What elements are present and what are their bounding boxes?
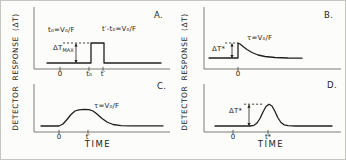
- panel-a-tick-t0: t₀: [86, 71, 92, 78]
- panel-b-annotation-tau: τ=V₀/F: [247, 35, 272, 42]
- panel-a-annotation-t0: t₀=V₀/F: [48, 27, 75, 34]
- panel-b-delta-t-star-label: ΔT*: [212, 46, 225, 53]
- figure-canvas-svg: [1, 1, 346, 160]
- panel-b-tick-0: 0: [236, 71, 240, 78]
- panel-d-delta-arrowhead-top: [247, 105, 250, 108]
- panel-c-label: C.: [157, 82, 166, 91]
- panel-c-x-axis-label: TIME: [85, 140, 111, 149]
- y-axis-label-right: DETECTOR RESPONSE (ΔT): [181, 13, 189, 130]
- panel-b-label: B.: [324, 11, 333, 20]
- y-axis-label-left: DETECTOR RESPONSE (ΔT): [12, 13, 20, 130]
- panel-b-delta-arrowhead-top: [230, 44, 233, 47]
- panel-a-annotation-tprime: t′-t₀=V₀/F: [102, 26, 136, 33]
- panel-d-label: D.: [327, 81, 337, 90]
- panel-b-axes: [204, 7, 341, 69]
- panel-c-response-curve: [41, 109, 163, 126]
- delta-t-subscript: MAX: [62, 47, 73, 53]
- panel-c-tick-0: 0: [57, 134, 61, 141]
- panel-a-tick-0: 0: [58, 71, 62, 78]
- panel-a-delta-t-max-label: ΔTMAX: [53, 45, 74, 53]
- panel-a-tick-tprime: t′: [101, 71, 105, 78]
- panel-a-axes: [34, 7, 170, 69]
- panel-d-x-axis-label: TIME: [258, 140, 284, 149]
- panel-a-label: A.: [154, 11, 163, 20]
- panel-a-delta-arrowhead-top: [74, 44, 77, 47]
- panel-c-annotation-tau: τ=V₀/F: [94, 103, 119, 110]
- panel-d-tick-0: 0: [231, 134, 235, 141]
- panel-d-delta-t-star-label: ΔT*: [229, 108, 242, 115]
- figure: DETECTOR RESPONSE (ΔT) DETECTOR RESPONSE…: [0, 0, 346, 160]
